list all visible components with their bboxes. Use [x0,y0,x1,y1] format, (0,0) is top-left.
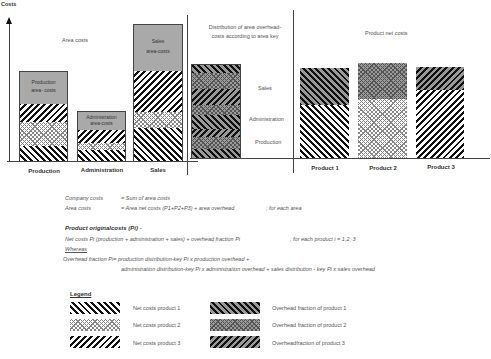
x-label-product-2: Product 2 [353,165,413,171]
formula-overhead-line-2: administration distribution-key Pi x adm… [121,266,375,272]
formula-company-costs-label: Company costs [65,195,103,201]
legend-label-overhead-2: Overhead fraction of product 2 [272,322,346,328]
legend-swatch-overhead-1 [210,302,260,314]
distribution-label-administration: Administration [249,116,284,122]
distribution-label-sales: Sales [258,85,272,91]
legend-swatch-overhead-2 [210,319,260,331]
bar-sales: Sales area-costs [133,24,183,162]
distribution-title-line-1: Distribution of area overhead- [195,24,295,30]
area-costs-title: Area costs [62,37,88,43]
legend-label-net-2: Net costs product 2 [133,322,180,328]
distribution-label-production: Production [255,139,281,145]
bar-product-2 [358,63,407,158]
legend-label-net-1: Net costs product 1 [133,305,180,311]
legend-swatch-net-2 [70,319,120,331]
product-costs-heading: Product originalcosts (Pi) - [65,225,142,231]
product-net-costs-title: Product net costs [365,30,408,36]
bar-product-1 [300,68,349,158]
x-label-product-1: Product 1 [295,165,355,171]
bar-production: Production area- costs [19,71,68,162]
legend-label-overhead-1: Overhead fraction of product 1 [272,305,346,311]
bar-administration: Administration area-costs [77,111,126,162]
distribution-title-line-2: costs according to area key [195,33,295,39]
x-label-production: Production [14,168,74,174]
y-axis-arrow-icon [6,17,12,24]
formula-area-costs-note: ; for each area [266,205,301,211]
x-label-product-3: Product 3 [411,164,471,170]
bar-distribution [191,64,241,159]
formula-overhead-line-1: Overhead fraction Pi= production distrib… [63,256,249,262]
formula-net-costs-note: ; for each product i = 1,2, 3 [290,236,356,242]
x-label-sales: Sales [128,167,188,173]
x-label-administration: Administration [72,167,132,173]
formula-area-costs-value: = Area net costs (P1+P2+P3) + area overh… [121,205,234,211]
y-axis [9,22,10,162]
formula-company-costs-value: = Sum of area costs [121,195,170,201]
legend-label-net-3: Net costs product 3 [133,340,180,346]
legend-swatch-overhead-3 [210,336,260,348]
legend-swatch-net-3 [70,336,120,348]
formula-net-costs: Net costs Pi (production + administratio… [65,236,240,242]
legend-label-overhead-3: Overheadfraction of product 3 [272,340,345,346]
legend-title: Legend [70,291,91,297]
formula-whereas: Whereas [65,246,87,252]
y-axis-label: Costs [1,1,16,7]
separator-1 [187,15,188,175]
formula-area-costs-label: Area costs [65,205,91,211]
legend-swatch-net-1 [70,302,120,314]
bar-product-3 [416,67,464,158]
